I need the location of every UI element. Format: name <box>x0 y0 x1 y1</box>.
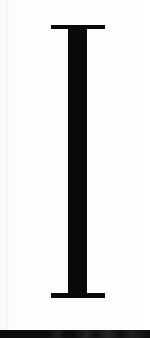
scanned-page <box>0 0 150 338</box>
glyph-bottom-serif <box>51 293 105 298</box>
scan-edge-noise <box>0 330 150 338</box>
scan-edge-band <box>0 330 150 338</box>
scan-rule-line <box>6 0 7 330</box>
glyph-stem <box>68 25 87 298</box>
